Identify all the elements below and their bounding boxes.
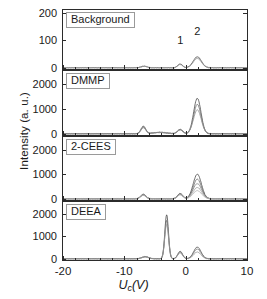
x-minor-tick-mark <box>88 258 89 260</box>
panel-label-text: 2-CEES <box>71 140 111 152</box>
y-tick-mark <box>62 236 66 237</box>
x-minor-tick-mark <box>100 198 101 200</box>
y-tick-mark <box>62 174 66 175</box>
trace-2cees-trace-2 <box>63 179 247 199</box>
y-tick-mark <box>62 13 66 14</box>
x-minor-tick-mark <box>210 258 211 260</box>
x-minor-tick-mark <box>235 67 236 69</box>
x-tick-label: -20 <box>43 265 83 277</box>
panel-background: Background12 <box>62 9 248 70</box>
y-tick-mark <box>62 259 66 260</box>
x-minor-tick-mark <box>100 133 101 135</box>
y-tick-mark <box>243 134 247 135</box>
x-minor-tick-mark <box>112 198 113 200</box>
y-tick-mark <box>62 214 66 215</box>
trace-2cees-trace-3 <box>63 183 247 198</box>
x-tick-label: -10 <box>104 265 144 277</box>
y-tick-mark <box>243 109 247 110</box>
trace-2cees-trace-4 <box>63 187 247 198</box>
x-minor-tick-mark <box>235 133 236 135</box>
y-tick-mark <box>62 68 66 69</box>
y-tick-mark <box>243 236 247 237</box>
x-minor-tick-mark <box>173 67 174 69</box>
x-tick-mark <box>186 131 187 135</box>
x-minor-tick-mark <box>137 133 138 135</box>
x-minor-tick-mark <box>235 258 236 260</box>
x-minor-tick-mark <box>137 67 138 69</box>
x-minor-tick-mark <box>198 258 199 260</box>
panel-dmmp: DMMP <box>62 70 248 136</box>
trace-deea-trace-3 <box>63 225 247 259</box>
y-tick-mark <box>62 109 66 110</box>
x-minor-tick-mark <box>88 133 89 135</box>
y-tick-label: 0 <box>0 63 57 74</box>
panel-deea: DEEA <box>62 201 248 261</box>
trace-background-trace-2 <box>63 58 247 68</box>
y-tick-mark <box>243 68 247 69</box>
x-minor-tick-mark <box>222 258 223 260</box>
x-tick-label: 0 <box>166 265 206 277</box>
trace-dmmp-trace-1 <box>63 98 247 134</box>
y-tick-mark <box>243 13 247 14</box>
x-axis-unit: (V) <box>132 278 149 292</box>
x-minor-tick-mark <box>88 67 89 69</box>
trace-background-trace-1 <box>63 57 247 68</box>
x-tick-mark <box>124 65 125 69</box>
x-minor-tick-mark <box>161 133 162 135</box>
y-tick-label: 200 <box>0 8 57 19</box>
y-tick-mark <box>62 40 66 41</box>
y-tick-label: 0 <box>0 254 57 265</box>
x-minor-tick-mark <box>173 198 174 200</box>
x-minor-tick-mark <box>112 133 113 135</box>
x-minor-tick-mark <box>198 133 199 135</box>
y-tick-mark <box>62 150 66 151</box>
y-tick-label: 2000 <box>0 145 57 156</box>
x-minor-tick-mark <box>173 133 174 135</box>
x-minor-tick-mark <box>161 198 162 200</box>
panel-label-text: Background <box>71 13 130 25</box>
y-tick-mark <box>243 40 247 41</box>
panel-label-chip: 2-CEES <box>66 139 116 155</box>
y-tick-mark <box>62 199 66 200</box>
panel-label-chip: Background <box>66 12 135 28</box>
trace-deea-trace-1 <box>63 215 247 259</box>
y-tick-mark <box>243 199 247 200</box>
x-tick-mark <box>247 256 248 260</box>
x-minor-tick-mark <box>100 258 101 260</box>
x-minor-tick-mark <box>198 67 199 69</box>
panel-label-chip: DEEA <box>66 204 106 220</box>
y-tick-mark <box>243 174 247 175</box>
x-axis-label: Uc(V) <box>0 278 267 293</box>
x-minor-tick-mark <box>149 198 150 200</box>
y-tick-label: 1000 <box>0 231 57 242</box>
x-minor-tick-mark <box>137 198 138 200</box>
x-minor-tick-mark <box>161 67 162 69</box>
x-minor-tick-mark <box>149 67 150 69</box>
spectra-figure: Intensity (a. u.) Background12DMMP2-CEES… <box>0 0 267 299</box>
x-minor-tick-mark <box>173 258 174 260</box>
y-tick-label: 2000 <box>0 209 57 220</box>
y-tick-label: 0 <box>0 129 57 140</box>
x-minor-tick-mark <box>112 258 113 260</box>
x-minor-tick-mark <box>222 198 223 200</box>
panel-label-chip: DMMP <box>66 73 110 89</box>
y-tick-label: 1000 <box>0 104 57 115</box>
y-tick-mark <box>62 134 66 135</box>
x-tick-mark <box>124 196 125 200</box>
y-tick-mark <box>62 84 66 85</box>
trace-dmmp-trace-3 <box>63 110 247 134</box>
x-minor-tick-mark <box>235 198 236 200</box>
y-tick-label: 100 <box>0 35 57 46</box>
y-tick-mark <box>243 84 247 85</box>
x-minor-tick-mark <box>100 67 101 69</box>
x-minor-tick-mark <box>149 258 150 260</box>
x-tick-mark <box>124 131 125 135</box>
x-minor-tick-mark <box>210 198 211 200</box>
x-tick-mark <box>186 196 187 200</box>
trace-deea-trace-2 <box>63 220 247 258</box>
x-minor-tick-mark <box>161 258 162 260</box>
peak-annotation-1: 1 <box>177 35 183 46</box>
y-tick-mark <box>243 214 247 215</box>
panel-label-text: DMMP <box>71 74 105 86</box>
peak-annotation-2: 2 <box>194 26 200 37</box>
